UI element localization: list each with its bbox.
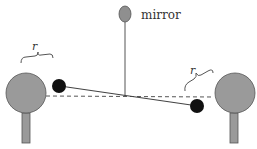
distance-brace-left bbox=[21, 52, 53, 63]
rod bbox=[60, 86, 198, 106]
mirror-label: mirror bbox=[141, 8, 181, 22]
small-sphere-right bbox=[190, 99, 204, 113]
large-sphere-left bbox=[6, 73, 46, 113]
left-stand bbox=[22, 113, 30, 143]
small-sphere-left bbox=[52, 79, 66, 93]
torsion-balance-diagram: mirror r r bbox=[0, 0, 257, 149]
mirror-icon bbox=[119, 6, 131, 22]
r-label-left: r bbox=[32, 40, 38, 53]
r-label-right: r bbox=[190, 64, 196, 77]
large-sphere-right bbox=[215, 73, 255, 113]
right-stand bbox=[230, 113, 238, 143]
